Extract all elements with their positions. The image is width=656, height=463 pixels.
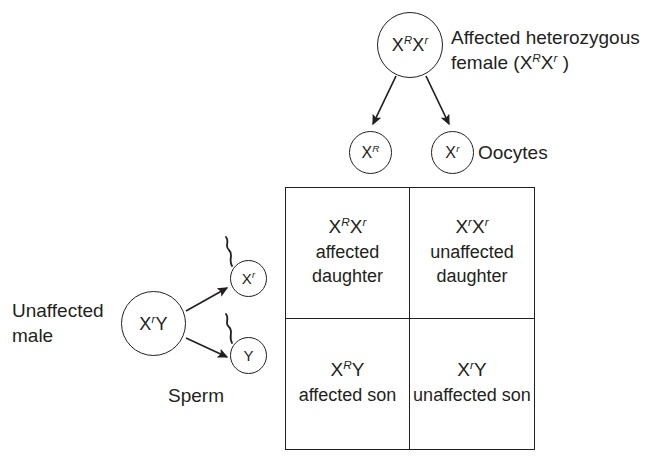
punnett-cell-genotype: XRY: [331, 358, 365, 382]
sperm-x-flagellum-icon: [226, 237, 232, 266]
sperm-y-flagellum-icon: [226, 314, 232, 343]
oocyte-x-recessive-genotype: Xr: [445, 145, 459, 161]
arrow-mother-to-oocyte-recessive: [426, 76, 449, 124]
punnett-cell-genotype: XrXr: [455, 215, 488, 239]
punnett-square-diagram: XRXr Affected heterozygousfemale (XRXr )…: [0, 0, 656, 463]
oocyte-x-recessive-circle: Xr: [431, 131, 474, 174]
oocyte-x-dominant-circle: XR: [349, 131, 392, 174]
father-label: Unaffected male: [12, 298, 127, 348]
punnett-cell-description: unaffected daughter: [410, 240, 534, 288]
sperm-x-recessive-genotype: Xr: [242, 271, 256, 286]
punnett-cell-genotype: XrY: [457, 358, 486, 382]
oocyte-x-dominant-genotype: XR: [361, 145, 379, 161]
punnett-cell-bottom-right: XrY unaffected son: [410, 319, 534, 450]
arrow-father-to-sperm-y: [186, 338, 227, 357]
oocytes-label: Oocytes: [478, 140, 548, 165]
father-genotype: XrY: [139, 315, 167, 333]
punnett-cell-top-left: XRXr affected daughter: [286, 188, 410, 319]
sperm-y-genotype: Y: [243, 348, 253, 363]
punnett-cell-description: affected son: [299, 383, 397, 407]
arrow-mother-to-oocyte-dominant: [373, 76, 396, 124]
father-gamete-circle: XrY: [121, 291, 186, 356]
sperm-label: Sperm: [168, 383, 224, 408]
punnett-cell-top-right: XrXr unaffected daughter: [410, 188, 534, 319]
sperm-y-circle: Y: [230, 337, 267, 374]
sperm-x-recessive-circle: Xr: [230, 260, 267, 297]
punnett-cell-bottom-left: XRY affected son: [286, 319, 410, 450]
punnett-square-grid: XRXr affected daughter XrXr unaffected d…: [285, 187, 535, 450]
mother-label: Affected heterozygousfemale (XRXr ): [451, 25, 656, 75]
punnett-cell-description: affected daughter: [286, 240, 409, 288]
mother-genotype: XRXr: [392, 36, 429, 54]
mother-gamete-circle: XRXr: [377, 12, 443, 78]
punnett-cell-genotype: XRXr: [329, 215, 367, 239]
arrow-father-to-sperm-x: [186, 288, 227, 311]
punnett-cell-description: unaffected son: [413, 383, 531, 407]
